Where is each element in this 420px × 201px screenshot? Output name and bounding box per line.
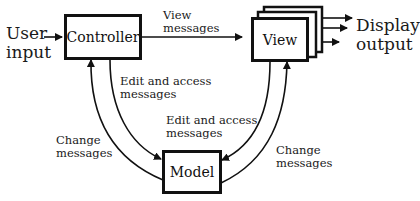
- edge-label-line2: messages: [276, 157, 332, 170]
- edge-label-line1: Change: [56, 134, 112, 147]
- view-label: View: [263, 32, 298, 48]
- user-input-label: User input: [6, 24, 51, 62]
- model-to-view-label: Change messages: [276, 144, 332, 169]
- edge-label-line1: Edit and access: [120, 75, 211, 88]
- user-input-line1: User: [6, 24, 51, 43]
- controller-label: Controller: [67, 29, 140, 45]
- model-box: Model: [162, 150, 222, 194]
- view-box: View: [251, 17, 309, 62]
- view-to-model-arrow: [222, 62, 270, 160]
- edge-label-line2: messages: [163, 22, 219, 35]
- edge-label-line1: View: [163, 9, 219, 22]
- edge-label-line1: Edit and access: [166, 114, 257, 127]
- user-input-line2: input: [6, 43, 51, 62]
- edge-label-line2: messages: [120, 88, 211, 101]
- display-output-line2: output: [356, 35, 420, 54]
- edge-label-line1: Change: [276, 144, 332, 157]
- view-to-model-label: Edit and access messages: [166, 114, 257, 139]
- edge-label-line2: messages: [56, 147, 112, 160]
- controller-box: Controller: [64, 14, 142, 60]
- display-output-label: Display output: [356, 16, 420, 54]
- controller-to-model-label: Edit and access messages: [120, 75, 211, 100]
- edge-label-line2: messages: [166, 127, 257, 140]
- controller-to-view-label: View messages: [163, 9, 219, 34]
- model-to-controller-label: Change messages: [56, 134, 112, 159]
- display-output-line1: Display: [356, 16, 420, 35]
- model-label: Model: [170, 164, 215, 180]
